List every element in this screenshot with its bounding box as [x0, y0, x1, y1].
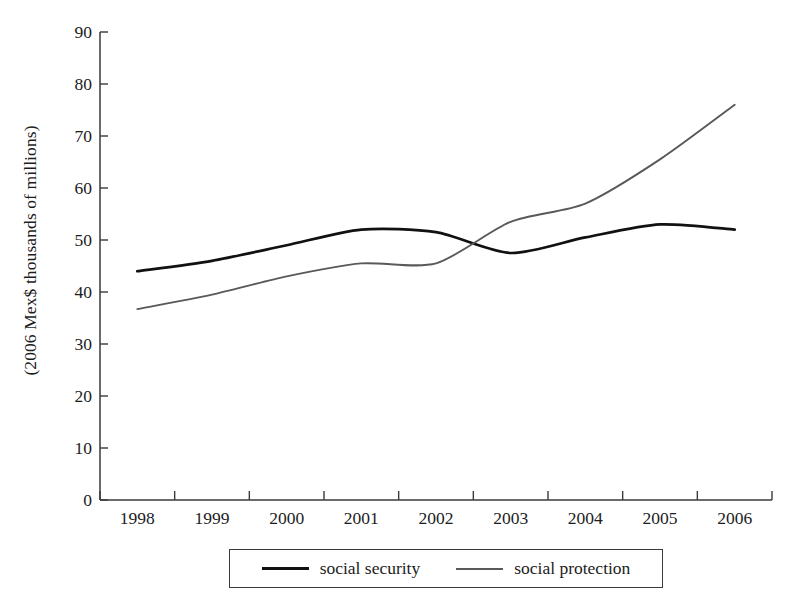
legend-item-social-protection: social protection: [456, 558, 630, 579]
legend-swatch-line-icon: [456, 568, 503, 570]
y-axis-tick-label: 60: [75, 178, 93, 198]
x-axis-tick-marks: [100, 491, 772, 500]
y-axis-tick-label: 0: [83, 490, 92, 510]
y-axis-tick-label: 40: [75, 282, 93, 302]
y-axis-tick-marks: [100, 32, 108, 500]
plot-area: 0102030405060708090 19981999200020012002…: [0, 0, 798, 613]
legend-item-social-security: social security: [262, 558, 421, 579]
legend-label: social protection: [514, 558, 630, 579]
x-axis-tick-label: 2004: [568, 508, 603, 528]
data-series-lines: [137, 105, 734, 309]
x-axis-tick-label: 2000: [269, 508, 304, 528]
line-chart: (2006 Mex$ thousands of millions) 010203…: [0, 0, 798, 613]
chart-legend: social security social protection: [229, 549, 663, 588]
x-axis-tick-labels: 199819992000200120022003200420052006: [120, 508, 753, 528]
y-axis-tick-label: 10: [75, 438, 93, 458]
x-axis-tick-label: 1998: [120, 508, 155, 528]
x-axis-tick-label: 2002: [419, 508, 454, 528]
series-line-social-protection: [137, 105, 734, 309]
y-axis-tick-label: 50: [75, 230, 93, 250]
y-axis-tick-label: 70: [75, 126, 93, 146]
x-axis-tick-label: 2001: [344, 508, 379, 528]
x-axis-tick-label: 2003: [493, 508, 528, 528]
y-axis-tick-label: 30: [75, 334, 93, 354]
x-axis-tick-label: 1999: [195, 508, 230, 528]
legend-swatch-line-icon: [262, 567, 309, 570]
legend-label: social security: [320, 558, 421, 579]
y-axis-tick-label: 80: [75, 74, 93, 94]
x-axis-tick-label: 2005: [643, 508, 678, 528]
y-axis-tick-labels: 0102030405060708090: [75, 22, 93, 510]
y-axis-tick-label: 20: [75, 386, 93, 406]
x-axis-tick-label: 2006: [717, 508, 752, 528]
y-axis-tick-label: 90: [75, 22, 93, 42]
